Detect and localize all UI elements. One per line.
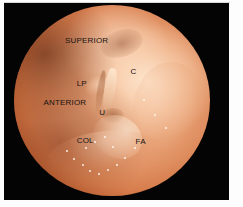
annotation-label-superior: SUPERIOR <box>65 37 108 45</box>
endoscope-frame: SUPERIORLPCANTERIORUCOLFA <box>4 3 229 200</box>
specular-highlight-dot <box>134 147 136 149</box>
specular-highlight-dot <box>154 114 156 116</box>
specular-highlight-dot <box>116 164 118 166</box>
endoscopic-field-of-view: SUPERIORLPCANTERIORUCOLFA <box>14 5 210 196</box>
specular-highlight-dot <box>73 158 75 160</box>
annotation-label-fibrous-annulus: FA <box>136 138 146 146</box>
annotation-label-cochlear-promontory: C <box>131 68 137 76</box>
annotation-label-umbo: U <box>99 109 105 117</box>
specular-highlight-dot <box>124 157 126 159</box>
annotation-label-lateral-process: LP <box>77 80 87 88</box>
specular-highlight-dot <box>85 147 87 149</box>
annotation-label-cone-of-light: COL <box>77 137 94 145</box>
figure-root: SUPERIORLPCANTERIORUCOLFA <box>0 0 243 207</box>
annotation-label-anterior: ANTERIOR <box>43 99 86 107</box>
specular-highlight-dot <box>104 136 106 138</box>
